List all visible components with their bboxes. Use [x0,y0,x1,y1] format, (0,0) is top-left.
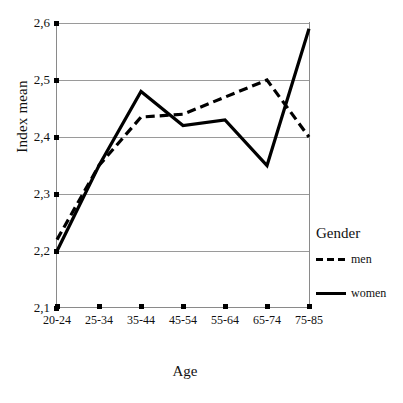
y-axis-line [56,22,57,309]
x-tick-mark [223,304,228,309]
legend-items: menwomen [316,249,402,303]
plot-right-border [309,22,310,309]
y-tick-label: 2,4 [8,130,50,143]
chart-figure: Index mean 2,12,22,32,42,52,6 20-2425-34… [0,0,403,403]
legend-swatch-dashed-icon [316,254,346,264]
legend-label: men [351,253,372,266]
y-tick-label: 2,5 [8,73,50,86]
series-layer [0,0,403,403]
legend-swatch-solid-icon [316,288,346,298]
gridline [57,251,309,252]
x-tick-mark [265,304,270,309]
y-tick-mark [54,21,59,26]
legend-item-women[interactable]: women [316,283,402,303]
series-line-men [57,80,309,240]
y-tick-label: 2,6 [8,16,50,29]
y-tick-mark [54,192,59,197]
x-axis-title: Age [125,363,245,380]
y-tick-label: 2,2 [8,244,50,257]
y-tick-mark [54,78,59,83]
x-tick-mark [97,304,102,309]
x-tick-mark [55,304,60,309]
chart-legend: Gender menwomen [316,225,402,317]
gridline-top [57,23,309,24]
series-line-women [57,29,309,251]
legend-label: women [351,287,386,300]
legend-item-men[interactable]: men [316,249,402,269]
x-tick-mark [181,304,186,309]
y-tick-mark [54,135,59,140]
gridline [57,137,309,138]
gridline [57,80,309,81]
x-tick-mark [139,304,144,309]
y-tick-mark [54,249,59,254]
legend-title: Gender [316,225,402,242]
gridline [57,194,309,195]
y-tick-label: 2,3 [8,187,50,200]
x-tick-mark [307,304,312,309]
